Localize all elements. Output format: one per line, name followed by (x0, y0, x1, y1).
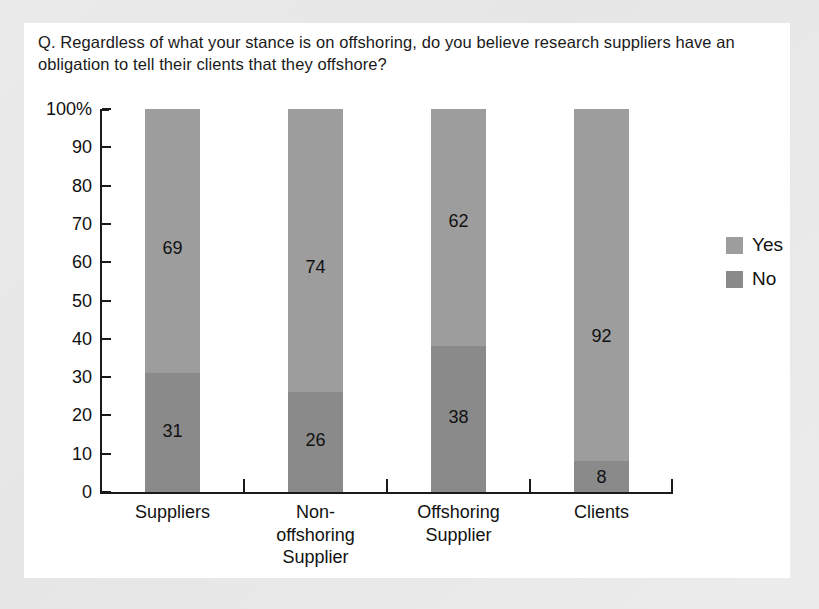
legend-swatch-no (726, 271, 743, 288)
y-axis-tick-label: 0 (12, 483, 92, 501)
page-background: Q. Regardless of what your stance is on … (0, 0, 819, 609)
y-axis-tick-label: 90 (12, 138, 92, 156)
legend-label: Yes (752, 234, 783, 256)
x-axis-tick (243, 479, 245, 493)
x-axis-category-line: Supplier (379, 524, 539, 547)
x-axis-tick (529, 479, 531, 493)
legend-item-yes: Yes (726, 228, 783, 262)
bar-suppliers: 6931 (145, 109, 200, 492)
x-axis-category-label: Non-offshoringSupplier (236, 501, 396, 569)
bar-label-no: 31 (145, 421, 200, 442)
bar-non-offshoring-supplier: 7426 (288, 109, 343, 492)
y-axis-tick-label: 20 (12, 406, 92, 424)
legend-label: No (752, 268, 776, 290)
bar-segment-yes (574, 109, 629, 461)
x-axis-category-line: Supplier (236, 546, 396, 569)
x-axis-category-line: Suppliers (93, 501, 253, 524)
x-axis-category-line: Non- (236, 501, 396, 524)
bar-label-no: 26 (288, 430, 343, 451)
x-axis-category-label: OffshoringSupplier (379, 501, 539, 546)
stacked-bar-chart: 0102030405060708090100% 693174266238928 … (24, 23, 790, 578)
bar-label-no: 8 (574, 467, 629, 488)
bar-offshoring-supplier: 6238 (431, 109, 486, 492)
y-axis-tick (102, 146, 111, 148)
x-axis-tick (386, 479, 388, 493)
x-axis-category-label: Clients (522, 501, 682, 524)
x-axis-category-label: Suppliers (93, 501, 253, 524)
x-axis-category-line: offshoring (236, 524, 396, 547)
y-axis-tick-label: 70 (12, 215, 92, 233)
y-axis-tick-label: 60 (12, 253, 92, 271)
y-axis-tick (102, 223, 111, 225)
y-axis-tick (102, 261, 111, 263)
y-axis-tick-label: 80 (12, 177, 92, 195)
y-axis-tick (102, 414, 111, 416)
chart-legend: YesNo (726, 228, 783, 296)
y-axis-tick (102, 338, 111, 340)
y-axis-tick-label: 50 (12, 292, 92, 310)
bar-label-yes: 62 (431, 211, 486, 232)
bar-label-no: 38 (431, 407, 486, 428)
x-axis-end-cap (671, 479, 673, 494)
x-axis-category-line: Clients (522, 501, 682, 524)
legend-swatch-yes (726, 237, 743, 254)
y-axis-tick (102, 185, 111, 187)
y-axis-tick-label: 10 (12, 445, 92, 463)
chart-card: Q. Regardless of what your stance is on … (24, 23, 790, 578)
bar-clients: 928 (574, 109, 629, 492)
bar-label-yes: 69 (145, 238, 200, 259)
y-axis-tick-label: 40 (12, 330, 92, 348)
y-axis-tick (102, 453, 111, 455)
y-axis-line (100, 109, 102, 494)
y-axis-tick (102, 300, 111, 302)
bar-segment-yes (288, 109, 343, 392)
x-axis-category-line: Offshoring (379, 501, 539, 524)
y-axis-tick (102, 491, 111, 493)
bar-label-yes: 74 (288, 257, 343, 278)
legend-item-no: No (726, 262, 783, 296)
y-axis-tick-label: 100% (12, 100, 92, 118)
y-axis-tick (102, 376, 111, 378)
y-axis-tick-label: 30 (12, 368, 92, 386)
y-axis-tick (102, 108, 111, 110)
bar-label-yes: 92 (574, 326, 629, 347)
